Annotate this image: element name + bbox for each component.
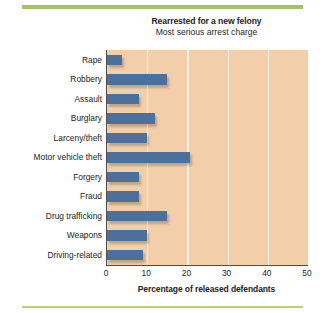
category-label-drug-trafficking: Drug trafficking	[0, 211, 102, 221]
x-tick-50: 50	[302, 268, 311, 278]
category-label-robbery: Robbery	[0, 74, 102, 84]
category-label-burglary: Burglary	[0, 113, 102, 123]
x-tick-40: 40	[262, 268, 271, 278]
category-label-rape: Rape	[0, 55, 102, 65]
bar	[107, 250, 143, 261]
bar-row	[107, 109, 308, 129]
x-tick-30: 30	[222, 268, 231, 278]
category-axis-labels: RapeRobberyAssaultBurglaryLarceny/theftM…	[0, 50, 102, 265]
bar-row	[107, 89, 308, 109]
x-tick-10: 10	[142, 268, 151, 278]
category-label-larceny-theft: Larceny/theft	[0, 133, 102, 143]
x-axis-tick-labels: 01020304050	[106, 268, 307, 280]
chart-figure: Rearrested for a new felony Most serious…	[0, 0, 325, 313]
bar-row	[107, 167, 308, 187]
bar-row	[107, 206, 308, 226]
bar	[107, 191, 139, 202]
bar	[107, 230, 147, 241]
chart-title-block: Rearrested for a new felony Most serious…	[106, 16, 307, 38]
bar	[107, 94, 139, 105]
x-tick-0: 0	[104, 268, 109, 278]
bar	[107, 113, 155, 124]
bar	[107, 74, 167, 85]
bar-row	[107, 70, 308, 90]
category-label-motor-vehicle-theft: Motor vehicle theft	[0, 152, 102, 162]
top-accent-rule	[22, 5, 303, 9]
bar-row	[107, 128, 308, 148]
x-tick-20: 20	[182, 268, 191, 278]
bar-row	[107, 187, 308, 207]
bar	[107, 152, 190, 163]
chart-title: Rearrested for a new felony	[106, 16, 307, 27]
bar	[107, 172, 139, 183]
plot-area	[106, 50, 308, 266]
category-label-forgery: Forgery	[0, 172, 102, 182]
bar-row	[107, 148, 308, 168]
bar-row	[107, 226, 308, 246]
category-label-fraud: Fraud	[0, 191, 102, 201]
bar-series	[107, 50, 308, 265]
bar-row	[107, 245, 308, 265]
bar-row	[107, 50, 308, 70]
category-label-weapons: Weapons	[0, 230, 102, 240]
bar	[107, 55, 122, 66]
category-label-driving-related: Driving-related	[0, 250, 102, 260]
category-label-assault: Assault	[0, 94, 102, 104]
bar	[107, 211, 167, 222]
x-axis-title: Percentage of released defendants	[106, 284, 307, 294]
chart-subtitle: Most serious arrest charge	[106, 27, 307, 38]
bar	[107, 133, 147, 144]
bottom-accent-rule	[22, 306, 303, 308]
